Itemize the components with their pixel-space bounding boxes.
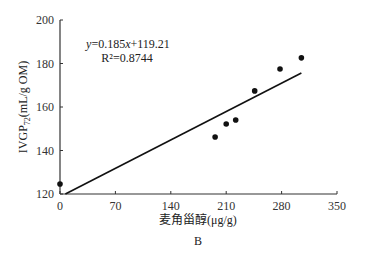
scatter-chart: 070140210280350120140160180200 y=0.185x+… <box>0 0 365 260</box>
x-tick-label: 350 <box>328 199 346 213</box>
x-tick-label: 140 <box>162 199 180 213</box>
trendline <box>65 73 301 194</box>
y-tick-label: 140 <box>36 144 54 158</box>
x-axis-label: 麦角甾醇(μg/g) <box>159 212 237 227</box>
data-point <box>57 181 63 187</box>
y-tick-label: 160 <box>36 100 54 114</box>
y-tick-label: 180 <box>36 57 54 71</box>
x-tick-label: 210 <box>217 199 235 213</box>
x-tick-label: 280 <box>273 199 291 213</box>
regression-equation: y=0.185x+119.21 <box>85 37 170 51</box>
data-point <box>233 117 239 123</box>
data-point <box>252 88 258 94</box>
y-tick-label: 200 <box>36 13 54 27</box>
data-point <box>299 55 305 61</box>
axes: 070140210280350120140160180200 <box>36 13 346 213</box>
plot-area <box>57 55 304 194</box>
data-point <box>212 134 218 140</box>
data-point <box>223 121 229 127</box>
x-tick-label: 0 <box>57 199 63 213</box>
r-squared: R²=0.8744 <box>101 51 152 65</box>
x-tick-label: 70 <box>109 199 121 213</box>
y-tick-label: 120 <box>36 187 54 201</box>
y-axis-label: IVGP72(mL/g OM) <box>16 61 32 153</box>
panel-label: B <box>194 234 202 248</box>
data-point <box>277 66 283 72</box>
